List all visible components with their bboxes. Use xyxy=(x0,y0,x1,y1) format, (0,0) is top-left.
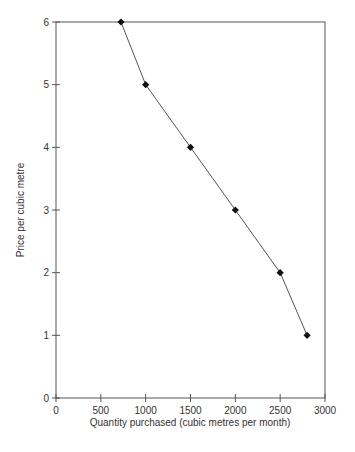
x-axis-ticks: 050010001500200025003000 xyxy=(53,394,336,416)
series-line xyxy=(121,22,307,335)
y-axis-ticks: 0123456 xyxy=(43,17,60,404)
y-tick-label: 2 xyxy=(43,267,49,278)
diamond-marker-icon xyxy=(117,18,124,25)
diamond-marker-icon xyxy=(277,269,284,276)
diamond-marker-icon xyxy=(303,332,310,339)
x-axis-label: Quantity purchased (cubic metres per mon… xyxy=(90,417,291,428)
y-tick-label: 0 xyxy=(43,393,49,404)
data-series xyxy=(117,18,310,339)
y-tick-label: 1 xyxy=(43,330,49,341)
y-tick-label: 6 xyxy=(43,17,49,28)
x-tick-label: 2500 xyxy=(269,405,292,416)
x-tick-label: 0 xyxy=(53,405,59,416)
diamond-marker-icon xyxy=(232,206,239,213)
x-tick-label: 500 xyxy=(92,405,109,416)
demand-chart: 0123456 050010001500200025003000 Quantit… xyxy=(0,0,355,452)
y-axis-label: Price per cubic metre xyxy=(15,162,26,257)
diamond-marker-icon xyxy=(187,144,194,151)
x-tick-label: 3000 xyxy=(314,405,337,416)
y-tick-label: 4 xyxy=(43,142,49,153)
y-tick-label: 5 xyxy=(43,79,49,90)
plot-border xyxy=(56,22,325,398)
y-tick-label: 3 xyxy=(43,205,49,216)
diamond-marker-icon xyxy=(142,81,149,88)
x-tick-label: 2000 xyxy=(224,405,247,416)
x-tick-label: 1500 xyxy=(179,405,202,416)
plot-frame xyxy=(56,22,325,398)
x-tick-label: 1000 xyxy=(135,405,158,416)
